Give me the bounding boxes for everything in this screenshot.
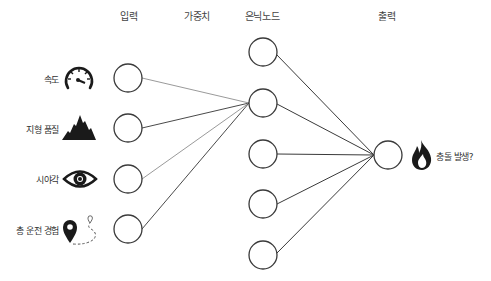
edge-input-2 — [142, 103, 249, 128]
input-label-speed: 속도 — [44, 73, 59, 86]
mountain-icon — [62, 114, 96, 140]
hidden-node — [249, 38, 277, 66]
hidden-edges — [276, 54, 374, 254]
output-label: 충돌 발생? — [436, 150, 473, 163]
input-label-view-angle: 시야각 — [36, 173, 59, 186]
hidden-node — [249, 190, 277, 218]
edge-hidden-3 — [277, 154, 374, 155]
input-node — [114, 165, 142, 193]
edge-hidden-4 — [277, 155, 374, 204]
hidden-node — [249, 140, 277, 168]
edge-hidden-1 — [276, 54, 374, 155]
edge-hidden-2 — [277, 104, 374, 155]
map-pin-route-icon — [63, 215, 103, 247]
output-node — [374, 141, 402, 169]
input-node — [114, 64, 142, 92]
input-label-driving-experience: 총 운전 경험 — [16, 224, 59, 237]
hidden-node — [249, 89, 277, 117]
edge-hidden-5 — [276, 155, 374, 254]
input-node — [114, 215, 142, 243]
speedometer-icon — [63, 64, 95, 92]
edge-input-1 — [142, 78, 249, 103]
fire-icon — [412, 140, 432, 170]
hidden-node — [249, 241, 277, 269]
edge-input-4 — [142, 103, 249, 229]
hidden-layer — [249, 38, 277, 269]
input-edges — [142, 78, 249, 229]
eye-icon — [62, 168, 98, 190]
input-node — [114, 114, 142, 142]
input-label-terrain: 지형 품질 — [26, 123, 59, 136]
input-layer — [114, 64, 142, 243]
edge-input-3 — [142, 103, 249, 179]
